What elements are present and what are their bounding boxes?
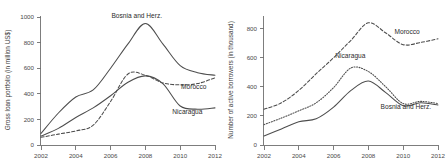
series-line-nicaragua <box>264 67 438 125</box>
series-line-morocco <box>264 23 438 110</box>
chart-panel-active-borrowers: 0200400600800 200220042006200820102012 N… <box>223 0 446 166</box>
left-series-labels: Bosnia and Herz.MoroccoNicaragua <box>111 12 206 116</box>
chart-panel-gross-loan-portfolio: 02004006008001000 2002200420062008201020… <box>0 0 223 166</box>
right-y-ticklabel: 200 <box>247 112 258 119</box>
right-series-group <box>264 23 438 136</box>
series-line-bosnia-and-herz <box>41 23 215 133</box>
left-y-ticklabel: 400 <box>24 90 35 97</box>
series-label-morocco: Morocco <box>181 83 207 90</box>
left-y-ticklabel: 800 <box>24 39 35 46</box>
left-y-ticklabel: 200 <box>24 116 35 123</box>
right-chart-svg: 0200400600800 200220042006200820102012 N… <box>223 0 446 166</box>
left-y-ticklabel: 0 <box>31 141 35 148</box>
left-x-ticklabel: 2004 <box>69 152 83 159</box>
right-x-ticklabel: 2004 <box>292 152 306 159</box>
series-label-bosnia-and-herz: Bosnia and Herz. <box>111 12 162 19</box>
right-x-ticklabel: 2002 <box>257 152 271 159</box>
right-y-ticklabel: 600 <box>247 54 258 61</box>
left-x-ticklabel: 2006 <box>104 152 118 159</box>
microfinance-two-panel-figure: 02004006008001000 2002200420062008201020… <box>0 0 446 166</box>
right-y-axis-title: Number of active borrowers (in thousand) <box>227 21 235 139</box>
left-y-axis-title: Gross loan portfolio (in million US$) <box>4 30 12 131</box>
right-x-ticklabel: 2010 <box>396 152 410 159</box>
right-x-ticks: 200220042006200820102012 <box>257 146 445 160</box>
right-y-ticklabel: 0 <box>254 141 258 148</box>
right-x-ticklabel: 2008 <box>362 152 376 159</box>
left-y-ticklabel: 600 <box>24 64 35 71</box>
right-x-ticklabel: 2012 <box>431 152 445 159</box>
left-x-ticklabel: 2010 <box>173 152 187 159</box>
left-chart-svg: 02004006008001000 2002200420062008201020… <box>0 0 223 166</box>
series-label-bosnia-and-herz: Bosnia and Herz. <box>381 103 432 110</box>
right-x-ticklabel: 2006 <box>327 152 341 159</box>
left-x-ticks: 200220042006200820102012 <box>34 146 222 160</box>
left-y-ticks: 02004006008001000 <box>20 13 40 148</box>
series-label-nicaragua: Nicaragua <box>335 52 365 60</box>
left-x-ticklabel: 2012 <box>208 152 222 159</box>
series-label-nicaragua: Nicaragua <box>172 108 202 116</box>
left-x-ticklabel: 2002 <box>34 152 48 159</box>
left-axes <box>41 16 217 146</box>
left-series-group <box>41 23 215 137</box>
series-label-morocco: Morocco <box>395 28 421 35</box>
right-y-ticklabel: 400 <box>247 83 258 90</box>
left-x-ticklabel: 2008 <box>139 152 153 159</box>
left-y-ticklabel: 1000 <box>20 13 34 20</box>
right-y-ticks: 0200400600800 <box>247 25 264 148</box>
right-y-ticklabel: 800 <box>247 25 258 32</box>
